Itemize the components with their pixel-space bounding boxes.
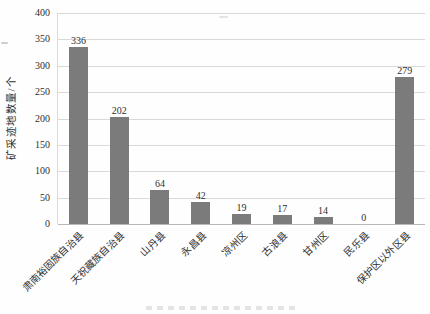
y-tick-label: 200 [35, 114, 50, 124]
gridline [58, 224, 425, 225]
x-tick-label: 民乐县 [343, 230, 371, 258]
bar-value-label: 42 [196, 190, 206, 201]
y-tick-label: 250 [35, 87, 50, 97]
x-tick-label: 古浪县 [261, 230, 289, 258]
bar-slot: 279保护区以外区县 [384, 13, 425, 224]
bar-value-label: 17 [277, 203, 287, 214]
bar [191, 202, 210, 224]
x-tick-label: 山丹县 [139, 230, 167, 258]
bar-value-label: 64 [155, 178, 165, 189]
bar-slot: 64山丹县 [140, 13, 181, 224]
y-tick-label: 350 [35, 34, 50, 44]
bar [150, 190, 169, 224]
y-tick-label: 150 [35, 140, 50, 150]
bar [273, 215, 292, 224]
bar-slot: 14甘州区 [303, 13, 344, 224]
bar-slot: 19凉州区 [221, 13, 262, 224]
bar-value-label: 279 [397, 65, 412, 76]
y-tick-label: 300 [35, 61, 50, 71]
bar [69, 47, 88, 224]
bar [232, 214, 251, 224]
x-tick-label: 甘州区 [302, 230, 330, 258]
bar-value-label: 14 [318, 205, 328, 216]
y-axis-tick-labels: 400350300250200150100500 [0, 13, 50, 224]
bar-slot: 336肃南裕固族自治县 [58, 13, 99, 224]
bar-value-label: 0 [361, 212, 366, 223]
scan-artifact [1, 42, 8, 44]
y-tick-label: 400 [35, 8, 50, 18]
chart-figure: 矿采迹地数量/个 400350300250200150100500 336肃南裕… [0, 0, 430, 314]
bar-value-label: 336 [71, 35, 86, 46]
bar-slot: 42永昌县 [180, 13, 221, 224]
bar [395, 77, 414, 224]
x-tick-label: 凉州区 [220, 230, 248, 258]
caption-remnant-cut-off [146, 306, 296, 310]
bar [314, 217, 333, 224]
plot-area: 336肃南裕固族自治县202天祝藏族自治县64山丹县42永昌县19凉州区17古浪… [57, 13, 425, 224]
bar-slot: 17古浪县 [262, 13, 303, 224]
bar-slot: 0民乐县 [343, 13, 384, 224]
y-tick-label: 50 [40, 193, 50, 203]
y-tick-label: 100 [35, 166, 50, 176]
y-tick-label: 0 [45, 219, 50, 229]
bar-slot: 202天祝藏族自治县 [99, 13, 140, 224]
x-tick-label: 永昌县 [180, 230, 208, 258]
scan-artifact [219, 16, 228, 18]
bar-value-label: 202 [112, 105, 127, 116]
bars-row: 336肃南裕固族自治县202天祝藏族自治县64山丹县42永昌县19凉州区17古浪… [58, 13, 425, 224]
bar [110, 117, 129, 224]
bar-value-label: 19 [237, 202, 247, 213]
